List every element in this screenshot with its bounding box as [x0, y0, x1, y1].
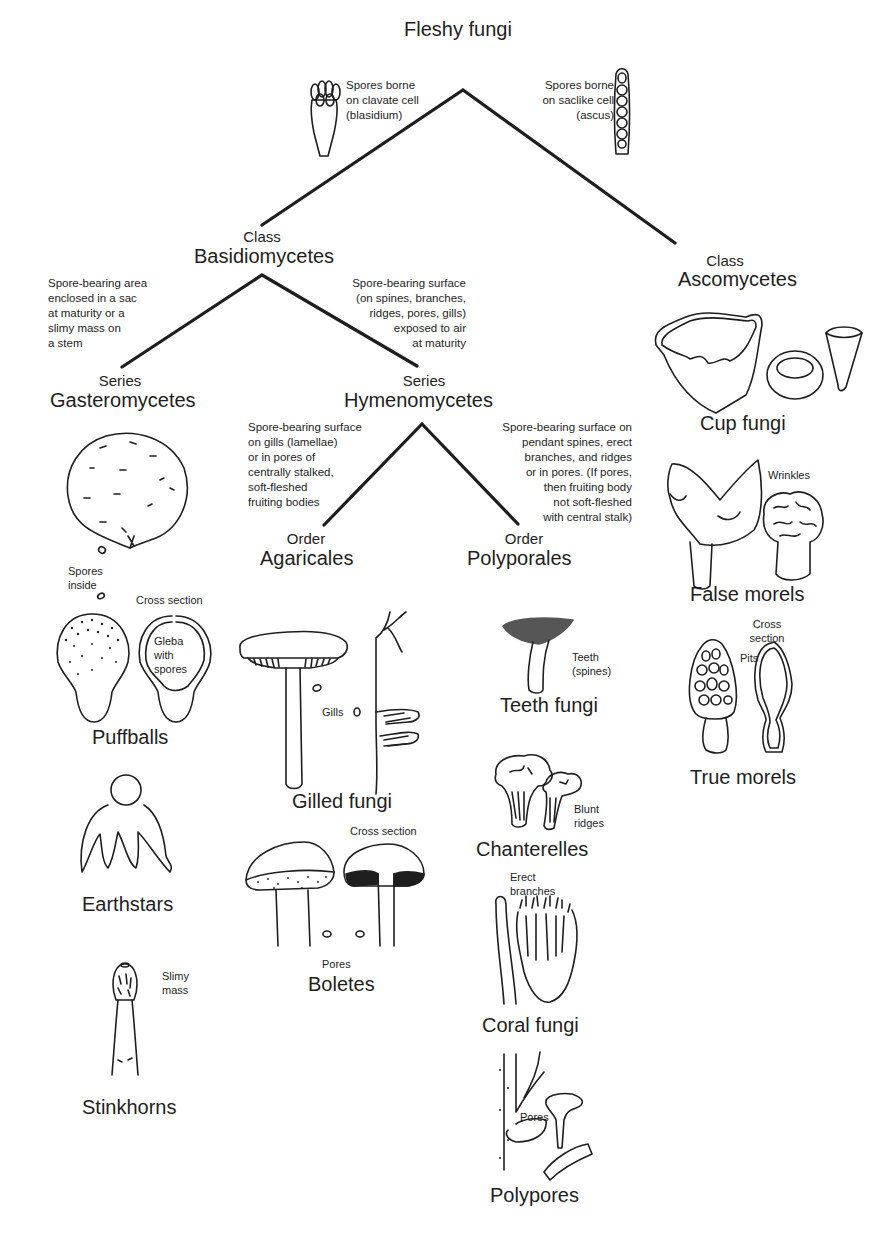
- stinkhorn-illustration: [104, 960, 154, 1080]
- asco-name: Ascomycetes: [678, 268, 797, 290]
- label-morel-cross-section: Cross section: [745, 617, 789, 645]
- hymeno-note-left: Spore-bearing surface on gills (lamellae…: [248, 420, 362, 510]
- cup-fungi-illustration: [646, 305, 846, 415]
- agaric-rank: Order: [266, 530, 346, 547]
- label-bolete-cross-section: Cross section: [350, 824, 417, 838]
- label-pores-polypore: Pores: [520, 1110, 549, 1124]
- basidio-name: Basidiomycetes: [194, 245, 334, 267]
- group-earthstars: Earthstars: [82, 893, 173, 915]
- label-puffball-cross-section: Cross section: [136, 593, 203, 607]
- group-stinkhorns: Stinkhorns: [82, 1096, 177, 1118]
- group-puffballs: Puffballs: [92, 726, 168, 748]
- label-wrinkles: Wrinkles: [768, 468, 810, 482]
- puffball-illustration: [60, 428, 200, 553]
- coral-fungi-illustration: [490, 892, 590, 1007]
- label-gleba: Gleba with spores: [154, 634, 187, 676]
- polypores-illustration: [494, 1050, 604, 1180]
- basidio-note-left: Spore-bearing area enclosed in a sac at …: [48, 276, 147, 351]
- group-polypores: Polypores: [490, 1184, 579, 1206]
- label-gills: Gills: [322, 705, 343, 719]
- note-ascus: Spores borne on saclike cell (ascus): [502, 78, 614, 123]
- agaric-name: Agaricales: [260, 547, 353, 569]
- label-slimy-mass: Slimy mass: [162, 969, 189, 997]
- asco-rank: Class: [690, 252, 760, 269]
- basidium-icon: [306, 78, 346, 168]
- label-spores-inside: Spores inside: [68, 564, 103, 592]
- pore-spore-icon: [322, 928, 372, 942]
- polypor-name: Polyporales: [467, 547, 572, 569]
- group-teeth-fungi: Teeth fungi: [500, 694, 580, 716]
- hymeno-name: Hymenomycetes: [344, 389, 493, 411]
- label-pores-bolete: Pores: [322, 957, 351, 971]
- label-blunt-ridges: Blunt ridges: [574, 802, 604, 830]
- group-boletes: Boletes: [308, 973, 375, 995]
- label-teeth: Teeth (spines): [572, 650, 611, 678]
- puffball-cross-section-illustration: [52, 612, 222, 724]
- basidio-rank: Class: [212, 228, 312, 245]
- gastero-name: Gasteromycetes: [50, 389, 196, 411]
- hymeno-note-right: Spore-bearing surface on pendant spines,…: [470, 420, 632, 525]
- group-gilled-fungi: Gilled fungi: [292, 790, 392, 812]
- earthstar-illustration: [78, 772, 188, 882]
- root-title: Fleshy fungi: [404, 18, 512, 40]
- group-coral-fungi: Coral fungi: [482, 1014, 579, 1036]
- teeth-fungi-illustration: [503, 618, 583, 693]
- ascus-icon: [610, 68, 636, 160]
- note-basidium: Spores borne on clavate cell (blasidium): [346, 78, 419, 123]
- gastero-rank: Series: [80, 372, 160, 389]
- hymeno-rank: Series: [384, 372, 464, 389]
- basidio-note-right: Spore-bearing surface (on spines, branch…: [300, 276, 466, 351]
- group-true-morels: True morels: [690, 766, 796, 788]
- group-false-morels: False morels: [690, 583, 804, 605]
- group-cup-fungi: Cup fungi: [700, 412, 786, 434]
- label-pits: Pits: [740, 651, 758, 665]
- polypor-rank: Order: [484, 530, 564, 547]
- group-chanterelles: Chanterelles: [476, 838, 588, 860]
